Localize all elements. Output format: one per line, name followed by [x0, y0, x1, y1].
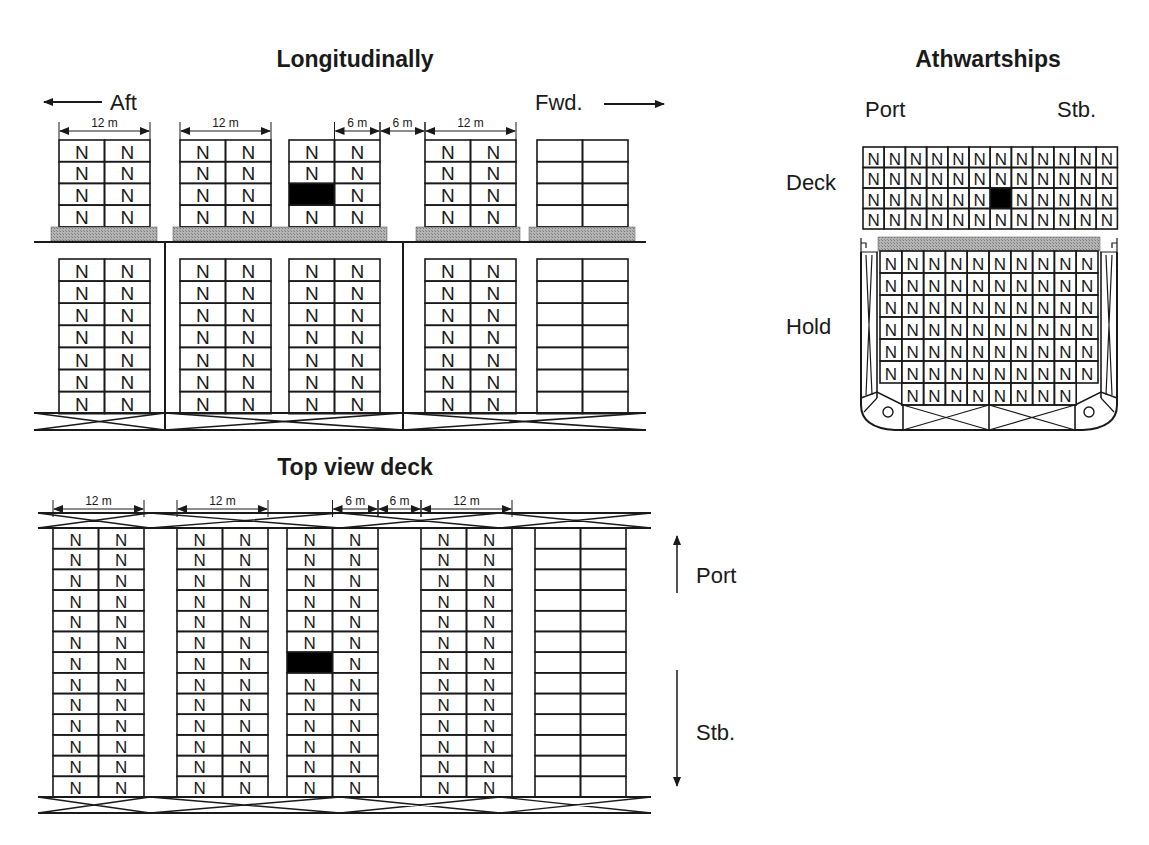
container-slot — [583, 259, 629, 281]
slot-label: N — [75, 350, 89, 371]
slot-label: N — [1037, 255, 1049, 274]
slot-label: N — [867, 191, 879, 210]
container-slot: N — [177, 528, 223, 550]
slot-label: N — [995, 150, 1007, 169]
slot-label: N — [483, 696, 495, 715]
athwart-hold-stacks: NNNNNNNNNNNNNNNNNNNNNNNNNNNNNNNNNNNNNNNN… — [880, 251, 1098, 406]
slot-label: N — [1016, 299, 1028, 318]
slot-label: N — [994, 299, 1006, 318]
container-slot: N — [1011, 251, 1033, 274]
slot-label: N — [1058, 191, 1070, 210]
container-slot: N — [467, 611, 513, 633]
slot-label: N — [1037, 321, 1049, 340]
container-slot: N — [421, 714, 467, 736]
slot-label: N — [438, 551, 450, 570]
top-view-bay — [535, 528, 626, 797]
container-slot: N — [467, 631, 513, 653]
slot-label: N — [196, 185, 210, 206]
container-slot: N — [948, 147, 969, 169]
athwart-deck-stacks: NNNNNNNNNNNNNNNNNNNNNNNNNNNNNNNNNNNNNNNN… — [863, 147, 1117, 230]
slot-label: N — [196, 327, 210, 348]
container-slot: N — [1096, 168, 1117, 190]
container-slot: N — [1075, 188, 1096, 210]
container-slot: N — [289, 281, 335, 304]
container-slot: N — [945, 383, 967, 406]
container-slot: N — [289, 325, 335, 348]
slot-label: N — [950, 321, 962, 340]
slot-label: N — [910, 150, 922, 169]
slot-label: N — [350, 207, 364, 228]
slot-label: N — [438, 696, 450, 715]
container-slot: N — [333, 549, 379, 571]
container-slot: N — [1033, 361, 1055, 384]
slot-label: N — [972, 365, 984, 384]
slot-label: N — [115, 572, 127, 591]
slot-label: N — [438, 593, 450, 612]
slot-label: N — [350, 372, 364, 393]
container-slot: N — [884, 147, 905, 169]
container-slot: N — [335, 140, 381, 163]
container-slot: N — [287, 549, 333, 571]
container-slot: N — [180, 259, 226, 282]
slot-label: N — [950, 299, 962, 318]
slot-label: N — [889, 150, 901, 169]
slot-label: N — [973, 191, 985, 210]
slot-label: N — [75, 283, 89, 304]
container-slot: N — [226, 183, 272, 206]
container-slot: N — [905, 188, 926, 210]
slot-label: N — [441, 394, 455, 415]
container-slot: N — [333, 714, 379, 736]
deck-bay: NNNNNNN — [289, 140, 380, 228]
slot-label: N — [194, 758, 206, 777]
hatch-cover — [529, 227, 635, 241]
container-slot: N — [177, 611, 223, 633]
slot-label: N — [486, 350, 500, 371]
slot-label: N — [1059, 321, 1071, 340]
slot-label: N — [438, 531, 450, 550]
container-slot: N — [924, 295, 946, 318]
container-slot: N — [223, 652, 269, 674]
container-slot — [537, 183, 583, 205]
container-slot: N — [289, 140, 335, 163]
container-slot: N — [59, 183, 105, 206]
slot-label: N — [441, 142, 455, 163]
container-slot: N — [467, 673, 513, 695]
slot-label: N — [70, 696, 82, 715]
container-slot: N — [53, 756, 99, 778]
top-view-bay: NNNNNNNNNNNNNNNNNNNNNNNNNN — [421, 528, 512, 798]
slot-label: N — [1101, 211, 1113, 230]
container-slot: N — [53, 673, 99, 695]
slot-label: N — [972, 387, 984, 406]
container-slot: N — [1096, 147, 1117, 169]
container-slot: N — [333, 652, 379, 674]
slot-label: N — [1059, 299, 1071, 318]
slot-label: N — [910, 191, 922, 210]
slot-label: N — [1016, 277, 1028, 296]
slot-label: N — [70, 551, 82, 570]
slot-label: N — [305, 283, 319, 304]
slot-label: N — [1016, 211, 1028, 230]
container-slot: N — [99, 611, 145, 633]
slot-label: N — [885, 299, 897, 318]
container-slot — [537, 162, 583, 184]
side-structure-port — [38, 513, 651, 528]
container-slot — [535, 569, 581, 590]
slot-label: N — [120, 372, 134, 393]
container-slot: N — [180, 162, 226, 185]
container-slot: N — [471, 205, 517, 228]
container-slot: N — [1033, 188, 1054, 210]
container-slot — [581, 756, 627, 777]
container-slot: N — [335, 281, 381, 304]
slot-label: N — [441, 261, 455, 282]
container-slot: N — [880, 273, 902, 296]
container-slot: N — [989, 251, 1011, 274]
container-slot: N — [927, 168, 948, 190]
container-slot — [535, 776, 581, 797]
container-slot: N — [902, 317, 924, 340]
container-slot: N — [1054, 361, 1076, 384]
container-slot: N — [53, 694, 99, 716]
slot-label: N — [885, 321, 897, 340]
container-slot: N — [1033, 251, 1055, 274]
container-slot: N — [969, 168, 990, 190]
container-slot: N — [421, 590, 467, 612]
